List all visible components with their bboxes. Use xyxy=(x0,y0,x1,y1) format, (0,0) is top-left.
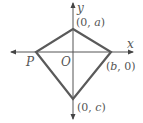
point-top-label: (0, a) xyxy=(76,16,105,29)
point-right-label: (b, 0) xyxy=(106,60,136,73)
x-axis-label: x xyxy=(127,37,134,51)
point-p-label: P xyxy=(25,55,35,69)
y-axis-label: y xyxy=(76,1,84,15)
origin-label: O xyxy=(61,55,71,69)
coordinate-diagram: y (0, a) x P O (b, 0) (0, c) xyxy=(0,0,143,123)
point-bottom-label: (0, c) xyxy=(77,101,106,114)
